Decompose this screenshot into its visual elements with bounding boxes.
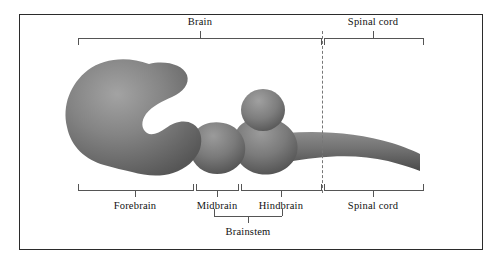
figure-frame — [19, 14, 483, 250]
top-bracket-brain-span — [78, 38, 322, 39]
bottom-label-forebrain: Forebrain — [114, 200, 157, 211]
brainstem-bracket-left-tip — [214, 209, 215, 216]
top-label-spinal-cord: Spinal cord — [348, 16, 398, 27]
figure-stage: Brain Spinal cord Forebrain Midbrain Hin… — [0, 0, 503, 262]
bottom-bracket-midbrain-left-tip — [196, 184, 197, 191]
brainstem-label: Brainstem — [226, 226, 271, 237]
top-bracket-spinalcord-left-tip — [324, 38, 325, 45]
bottom-bracket-hindbrain-left-tip — [241, 184, 242, 191]
bottom-label-midbrain: Midbrain — [197, 200, 238, 211]
bottom-bracket-midbrain-stem-tick — [217, 190, 218, 197]
brain-spinalcord-divider — [322, 31, 323, 193]
top-bracket-brain-left-tip — [78, 38, 79, 45]
bottom-label-spinal-cord: Spinal cord — [348, 200, 398, 211]
top-bracket-brain-stem-tick — [200, 31, 201, 38]
bottom-bracket-hindbrain-right-tip — [321, 184, 322, 191]
bottom-bracket-spinalcord-right-tip — [423, 184, 424, 191]
top-bracket-spinalcord-span — [324, 38, 423, 39]
bottom-bracket-spinalcord-left-tip — [324, 184, 325, 191]
top-bracket-spinalcord-stem-tick — [373, 31, 374, 38]
bottom-bracket-midbrain-right-tip — [238, 184, 239, 191]
brainstem-bracket-stem-tick — [248, 216, 249, 223]
brainstem-bracket-right-tip — [282, 209, 283, 216]
bottom-bracket-forebrain-left-tip — [78, 184, 79, 191]
bottom-bracket-forebrain-right-tip — [193, 184, 194, 191]
top-label-brain: Brain — [188, 16, 212, 27]
top-bracket-spinalcord-right-tip — [423, 38, 424, 45]
bottom-bracket-spinalcord-stem-tick — [373, 190, 374, 197]
bottom-label-hindbrain: Hindbrain — [259, 200, 303, 211]
bottom-bracket-forebrain-stem-tick — [135, 190, 136, 197]
bottom-bracket-hindbrain-stem-tick — [281, 190, 282, 197]
top-bracket-brain-right-tip — [321, 38, 322, 45]
